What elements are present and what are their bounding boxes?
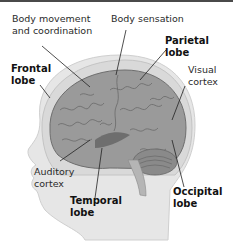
label-occipital-lobe: Occipital lobe (173, 186, 222, 210)
label-body-sensation: Body sensation (111, 13, 184, 25)
label-auditory-cortex: Auditory cortex (34, 166, 74, 190)
label-parietal-lobe: Parietal lobe (165, 35, 209, 59)
label-visual-cortex: Visual cortex (188, 64, 218, 88)
label-body-movement: Body movement and coordination (12, 13, 92, 37)
label-frontal-lobe: Frontal lobe (11, 63, 51, 87)
label-temporal-lobe: Temporal lobe (70, 195, 122, 219)
